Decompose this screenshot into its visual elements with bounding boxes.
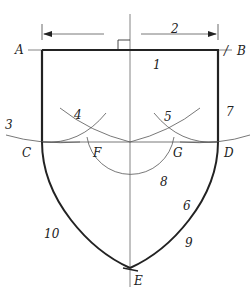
- label-D: D: [223, 146, 234, 160]
- right-angle-marker: [118, 40, 130, 50]
- step-6: 6: [183, 199, 191, 213]
- label-A: A: [14, 43, 24, 57]
- curve-right-DE: [130, 142, 218, 268]
- arrow-left-icon: [43, 31, 52, 37]
- label-F: F: [92, 146, 102, 160]
- step-7: 7: [226, 105, 234, 119]
- step-10: 10: [44, 227, 60, 241]
- curve-left-CE: [42, 142, 130, 268]
- label-G: G: [173, 146, 183, 160]
- step-3: 3: [5, 118, 13, 132]
- shield-construction-diagram: / A B C D E F G 1 2 3 4 5 6 7 8 9 10: [0, 0, 252, 287]
- label-E: E: [133, 274, 143, 287]
- step-9: 9: [185, 236, 193, 250]
- step-1: 1: [153, 58, 161, 72]
- label-C: C: [22, 146, 31, 160]
- step-2: 2: [170, 22, 179, 36]
- step-8: 8: [160, 175, 168, 189]
- step-4: 4: [73, 108, 82, 122]
- step-5: 5: [164, 110, 172, 124]
- tick-mark-B: /: [223, 44, 230, 58]
- arrow-right-icon: [208, 31, 217, 37]
- label-B: B: [236, 44, 246, 58]
